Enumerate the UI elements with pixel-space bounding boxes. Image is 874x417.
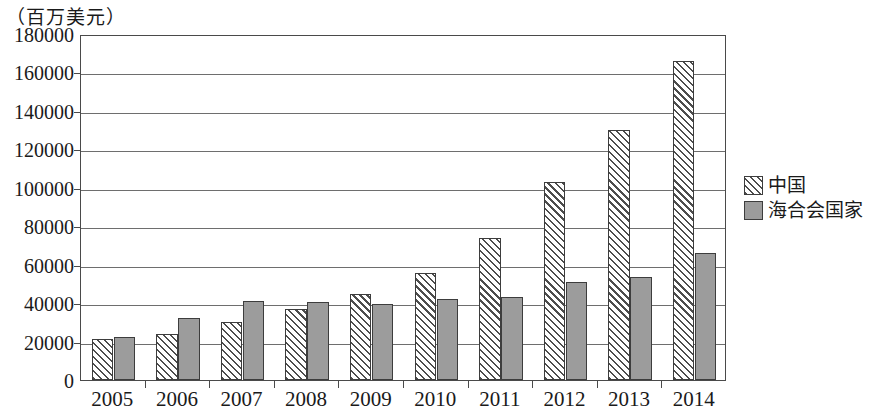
bar-中国-2009 — [350, 294, 372, 381]
x-tick-mark — [338, 381, 339, 388]
solid-swatch-icon — [744, 201, 763, 220]
bar-海合会国家-2014 — [695, 253, 717, 380]
x-tick-label-2008: 2008 — [274, 389, 339, 410]
x-tick-label-2010: 2010 — [403, 389, 468, 410]
bar-中国-2012 — [544, 182, 566, 380]
x-tick-mark — [403, 381, 404, 388]
x-tick-label-2012: 2012 — [532, 389, 597, 410]
bar-中国-2013 — [608, 130, 630, 380]
x-tick-label-2009: 2009 — [338, 389, 403, 410]
y-tick-label: 160000 — [0, 63, 74, 83]
y-tick-label: 100000 — [0, 179, 74, 199]
x-tick-label-2013: 2013 — [597, 389, 662, 410]
legend-label-china: 中国 — [768, 176, 806, 195]
bar-中国-2008 — [285, 309, 307, 380]
bar-海合会国家-2005 — [114, 337, 136, 380]
x-tick-label-2005: 2005 — [80, 389, 145, 410]
y-tick-label: 0 — [0, 371, 74, 391]
x-tick-mark — [468, 381, 469, 388]
y-tick-label: 180000 — [0, 25, 74, 45]
bar-中国-2006 — [156, 334, 178, 380]
x-tick-mark — [597, 381, 598, 388]
legend-label-gcc: 海合会国家 — [768, 201, 863, 220]
x-tick-mark — [145, 381, 146, 388]
bar-海合会国家-2013 — [630, 277, 652, 380]
bar-海合会国家-2009 — [372, 304, 394, 380]
bar-海合会国家-2012 — [566, 282, 588, 380]
x-tick-mark — [274, 381, 275, 388]
y-tick-label: 20000 — [0, 333, 74, 353]
bar-海合会国家-2011 — [501, 297, 523, 380]
legend-item-china[interactable]: 中国 — [744, 176, 863, 195]
bar-海合会国家-2010 — [437, 299, 459, 380]
y-tick-label: 40000 — [0, 294, 74, 314]
legend: 中国 海合会国家 — [744, 176, 863, 220]
bar-中国-2007 — [221, 322, 243, 380]
y-tick-label: 60000 — [0, 256, 74, 276]
gridline — [81, 113, 725, 114]
hatch-swatch-icon — [744, 176, 763, 195]
x-tick-mark — [532, 381, 533, 388]
y-tick-label: 120000 — [0, 140, 74, 160]
x-tick-label-2014: 2014 — [661, 389, 726, 410]
bar-中国-2014 — [673, 61, 695, 380]
x-tick-label-2007: 2007 — [209, 389, 274, 410]
bar-中国-2010 — [415, 273, 437, 380]
bar-中国-2005 — [92, 339, 114, 380]
y-tick-label: 140000 — [0, 102, 74, 122]
gridline — [81, 74, 725, 75]
legend-item-gcc[interactable]: 海合会国家 — [744, 201, 863, 220]
y-tick-label: 80000 — [0, 217, 74, 237]
x-tick-mark — [661, 381, 662, 388]
plot-area — [80, 35, 726, 381]
x-tick-label-2006: 2006 — [145, 389, 210, 410]
bar-chart: （百万美元） 180000160000140000120000100000800… — [0, 0, 874, 417]
bar-中国-2011 — [479, 238, 501, 380]
x-tick-label-2011: 2011 — [468, 389, 533, 410]
bar-海合会国家-2007 — [243, 301, 265, 380]
x-tick-mark — [209, 381, 210, 388]
bar-海合会国家-2008 — [307, 302, 329, 380]
bar-海合会国家-2006 — [178, 318, 200, 380]
